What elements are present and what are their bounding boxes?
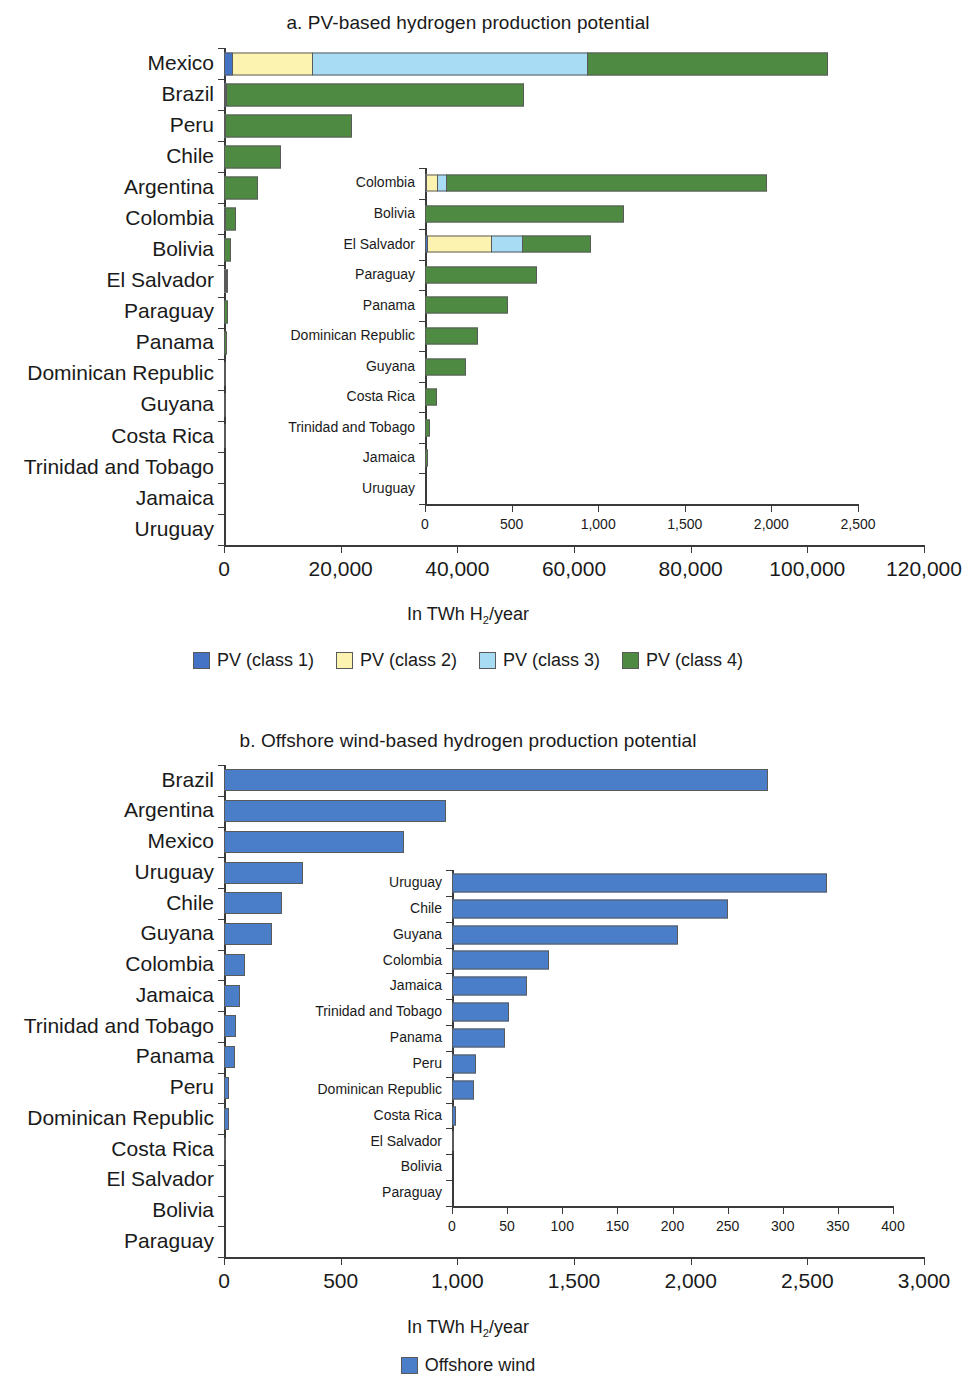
wind-main-category-label: Jamaica [0,984,214,1005]
pv-main-x-tick-label: 100,000 [747,558,867,579]
pv-main-y-tick [218,79,225,80]
pv-main-category-label: Bolivia [0,238,214,259]
wind-main-y-tick [218,888,225,889]
pv-main-category-label: Panama [0,331,214,352]
wind-inset-category-label: Guyana [267,927,442,941]
pv-main-bar-segment [224,301,228,324]
pv-inset-y-tick [419,473,426,474]
panel-offshore-wind-chart: b. Offshore wind-based hydrogen producti… [0,700,936,1383]
wind-main-category-label: Panama [0,1045,214,1066]
pv-inset-x-axis-line [425,504,858,506]
pv-inset-category-label: Guyana [240,359,415,373]
wind-inset-x-tick [893,1206,894,1214]
pv-main-category-label: Argentina [0,176,214,197]
pv-legend-swatch-icon [193,652,210,669]
pv-main-y-tick [218,110,225,111]
pv-inset-y-tick [419,443,426,444]
pv-main-category-label: Dominican Republic [0,362,214,383]
wind-main-x-tick [457,1257,458,1265]
pv-inset-y-tick [419,290,426,291]
wind-inset-category-label: Uruguay [267,875,442,889]
wind-inset-bar [452,873,827,892]
panel-b-title: b. Offshore wind-based hydrogen producti… [0,730,936,752]
wind-main-category-label: Chile [0,892,214,913]
pv-inset-category-label: Colombia [240,175,415,189]
wind-main-bar-segment [224,1046,235,1068]
pv-inset-bar [425,450,428,467]
pv-legend-item[interactable]: PV (class 4) [622,650,743,671]
pv-inset-bar [425,328,478,345]
pv-main-y-tick [218,297,225,298]
pv-main-bar [224,269,228,292]
wind-inset-x-tick-label: 400 [833,1219,953,1233]
wind-main-category-label: Costa Rica [0,1138,214,1159]
wind-main-bar [224,1077,229,1099]
wind-main-category-label: Trinidad and Tobago [0,1015,214,1036]
pv-main-bar [224,332,227,355]
wind-main-category-label: Colombia [0,953,214,974]
pv-inset-x-tick [512,504,513,512]
pv-main-category-label: El Salvador [0,269,214,290]
wind-main-category-label: Uruguay [0,861,214,882]
pv-inset-bar-segment [491,236,524,253]
wind-main-y-tick [218,857,225,858]
wind-main-bar-segment [224,1138,226,1160]
wind-main-category-label: Mexico [0,830,214,851]
wind-inset-bar [452,1132,454,1151]
wind-main-x-tick-label: 2,500 [747,1270,867,1291]
panel-a-title: a. PV-based hydrogen production potentia… [0,12,936,34]
pv-legend-item[interactable]: PV (class 3) [479,650,600,671]
wind-inset-y-tick [446,870,453,871]
wind-inset-y-tick [446,1025,453,1026]
pv-inset-y-tick [419,168,426,169]
wind-main-category-label: Paraguay [0,1230,214,1251]
pv-main-bar-segment [224,363,226,386]
wind-main-y-tick [218,1011,225,1012]
pv-main-category-label: Trinidad and Tobago [0,456,214,477]
wind-inset-category-label: El Salvador [267,1134,442,1148]
pv-legend-item[interactable]: PV (class 2) [336,650,457,671]
pv-main-bar-segment [225,114,352,137]
pv-inset-category-label: Costa Rica [240,389,415,403]
wind-main-bar [224,1046,235,1068]
pv-main-category-label: Jamaica [0,487,214,508]
wind-inset-bar-segment [452,899,728,918]
wind-inset-category-label: Chile [267,901,442,915]
wind-inset-category-label: Bolivia [267,1159,442,1173]
pv-inset-bar-segment [425,328,478,345]
wind-main-category-label: Argentina [0,799,214,820]
pv-main-category-label: Colombia [0,207,214,228]
pv-main-x-tick [574,545,575,553]
wind-legend-item[interactable]: Offshore wind [401,1355,536,1376]
wind-main-bar [224,1138,226,1160]
pv-inset-bar-segment [425,358,466,375]
pv-inset-bar-segment [425,205,624,222]
wind-main-bar [224,985,240,1007]
wind-main-category-label: Peru [0,1076,214,1097]
pv-main-bar-segment [224,332,227,355]
wind-inset-category-label: Dominican Republic [267,1082,442,1096]
pv-main-bar-segment [224,394,226,417]
wind-inset-bar-segment [452,951,549,970]
wind-main-bar-segment [224,1108,229,1130]
pv-inset-category-label: Bolivia [240,206,415,220]
pv-main-category-label: Uruguay [0,518,214,539]
pv-main-y-tick [218,265,225,266]
wind-caption-post: /year [489,1317,529,1337]
pv-inset-category-label: Panama [240,298,415,312]
pv-legend-item[interactable]: PV (class 1) [193,650,314,671]
wind-inset-bar-segment [452,1106,456,1125]
pv-legend-swatch-icon [336,652,353,669]
wind-inset-x-tick [452,1206,453,1214]
pv-inset-bar [425,297,508,314]
wind-inset-bar-segment [452,1080,474,1099]
pv-main-bar [224,363,226,386]
wind-inset-y-tick [446,948,453,949]
wind-inset-x-tick [673,1206,674,1214]
wind-inset-category-label: Colombia [267,953,442,967]
pv-main-x-tick-label: 80,000 [631,558,751,579]
wind-main-category-label: Bolivia [0,1199,214,1220]
pv-main-x-tick [457,545,458,553]
pv-main-y-tick [218,390,225,391]
pv-main-category-label: Chile [0,145,214,166]
